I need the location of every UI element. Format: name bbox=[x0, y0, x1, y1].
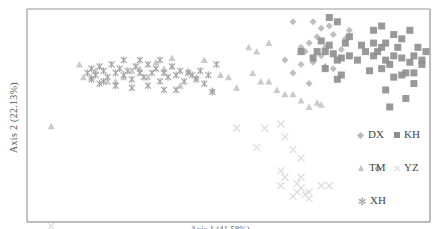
legend-label: XH bbox=[370, 194, 386, 206]
scatter-chart: Axis 2 (22.13%) Axis 1 (41.58%) DX KH TM… bbox=[0, 0, 434, 229]
square-icon bbox=[394, 132, 400, 138]
data-point-kh bbox=[346, 52, 353, 59]
asterisk-x-icon: ✻ bbox=[358, 196, 366, 207]
data-point-kh bbox=[386, 103, 393, 110]
data-point-kh bbox=[334, 18, 341, 25]
data-point-kh bbox=[358, 42, 365, 49]
data-point-kh bbox=[370, 27, 377, 34]
data-point-kh bbox=[410, 80, 417, 87]
data-point-kh bbox=[382, 86, 389, 93]
data-point-kh bbox=[326, 42, 333, 49]
data-point-kh bbox=[346, 33, 353, 40]
data-point-kh bbox=[366, 67, 373, 74]
data-point-kh bbox=[310, 54, 317, 61]
legend-label: TM bbox=[369, 161, 386, 173]
x-icon: ✕ bbox=[393, 163, 401, 174]
legend-label: KH bbox=[404, 128, 420, 140]
x-axis-label: Axis 1 (41.58%) bbox=[140, 224, 300, 229]
legend-item-kh: KH bbox=[394, 128, 420, 140]
data-point-kh bbox=[398, 72, 405, 79]
data-point-kh bbox=[390, 31, 397, 38]
data-point-kh bbox=[378, 23, 385, 30]
legend-item-yz: ✕YZ bbox=[393, 161, 419, 174]
data-point-kh bbox=[406, 59, 413, 66]
legend-label: DX bbox=[368, 128, 384, 140]
data-point-kh bbox=[330, 50, 337, 57]
data-point-kh bbox=[326, 14, 333, 21]
data-point-kh bbox=[410, 52, 417, 59]
data-point-kh bbox=[362, 48, 369, 55]
data-point-kh bbox=[390, 74, 397, 81]
data-point-kh bbox=[322, 65, 329, 72]
data-point-kh bbox=[402, 95, 409, 102]
data-point-kh bbox=[378, 65, 385, 72]
data-point-kh bbox=[422, 48, 429, 55]
data-point-kh bbox=[298, 48, 305, 55]
data-point-kh bbox=[370, 40, 377, 47]
data-point-kh bbox=[410, 69, 417, 76]
data-point-kh bbox=[342, 40, 349, 47]
data-point-kh bbox=[394, 44, 401, 51]
triangle-icon bbox=[358, 165, 364, 171]
legend-item-dx: DX bbox=[358, 128, 384, 140]
data-point-kh bbox=[334, 76, 341, 83]
data-point-kh bbox=[414, 44, 421, 51]
data-point-kh bbox=[398, 54, 405, 61]
data-point-kh bbox=[406, 27, 413, 34]
data-point-kh bbox=[398, 35, 405, 42]
data-point-yz bbox=[48, 223, 55, 229]
legend-item-xh: ✻XH bbox=[358, 194, 386, 207]
data-point-kh bbox=[390, 52, 397, 59]
data-point-kh bbox=[354, 57, 361, 64]
data-point-kh bbox=[382, 40, 389, 47]
data-point-kh bbox=[386, 61, 393, 68]
data-point-kh bbox=[322, 48, 329, 55]
data-point-kh bbox=[314, 48, 321, 55]
y-axis-label: Axis 2 (22.13%) bbox=[8, 53, 19, 183]
diamond-icon bbox=[357, 132, 364, 139]
legend-item-tm: TM bbox=[358, 161, 386, 173]
data-point-kh bbox=[338, 54, 345, 61]
data-point-kh bbox=[318, 37, 325, 44]
data-point-kh bbox=[418, 61, 425, 68]
legend-label: YZ bbox=[404, 161, 419, 173]
